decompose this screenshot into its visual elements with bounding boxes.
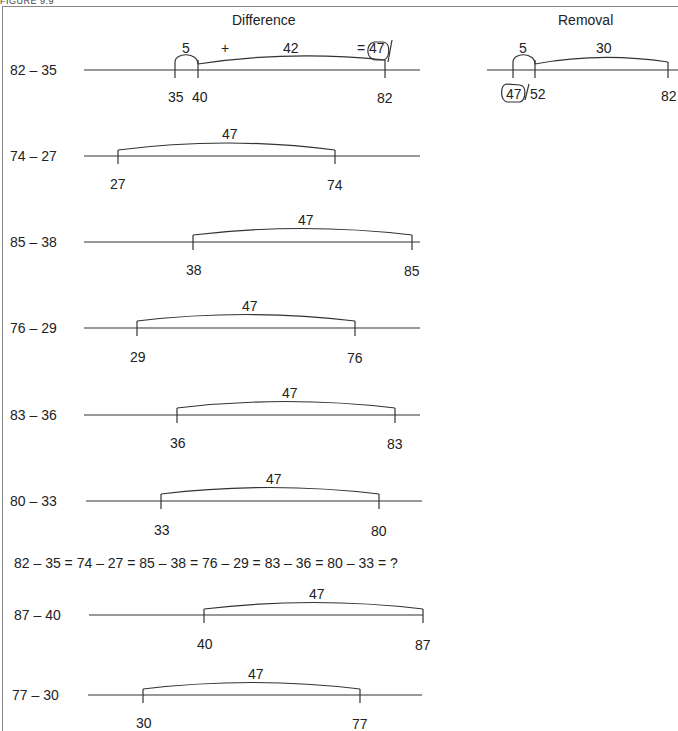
jump-label: 30	[596, 40, 612, 56]
difference-number-line-3	[84, 229, 420, 251]
tick-label: 30	[136, 715, 152, 731]
tick-label: 52	[530, 86, 546, 102]
difference-number-line-8	[88, 683, 422, 704]
tick-label: 82	[377, 90, 393, 106]
jump-label: 42	[283, 40, 299, 56]
tick-label: 33	[154, 522, 170, 538]
plus-sign: +	[221, 40, 229, 56]
tick-label: 87	[415, 637, 431, 653]
total-label: = 47	[357, 40, 385, 56]
jump-label: 5	[182, 40, 190, 56]
tick-label: 35	[168, 89, 184, 105]
tick-label: 76	[347, 350, 363, 366]
jump-label: 47	[248, 666, 264, 682]
tick-label: 36	[170, 435, 186, 451]
equation-text: 82 – 35 = 74 – 27 = 85 – 38 = 76 – 29 = …	[14, 555, 398, 571]
row-label: 80 – 33	[10, 493, 57, 509]
jump-label: 47	[309, 586, 325, 602]
jump-label: 47	[222, 126, 238, 142]
tick-label: 85	[404, 263, 420, 279]
tick-label: 80	[371, 523, 387, 539]
jump-label: 5	[519, 40, 527, 56]
tick-label: 27	[110, 176, 126, 192]
removal-heading: Removal	[558, 12, 613, 28]
tick-label: 74	[327, 177, 343, 193]
tick-label: 83	[387, 436, 403, 452]
number-line-drawings	[0, 0, 678, 731]
difference-number-line-6	[86, 488, 422, 510]
tick-label: 40	[192, 89, 208, 105]
row-label: 76 – 29	[10, 320, 57, 336]
tick-label: 38	[186, 262, 202, 278]
row-label: 87 – 40	[14, 607, 61, 623]
row-label: 74 – 27	[10, 148, 57, 164]
jump-label: 47	[298, 212, 314, 228]
tick-label: 77	[352, 716, 368, 731]
difference-number-line-2	[84, 143, 420, 164]
row-label: 77 – 30	[12, 687, 59, 703]
tick-label: 29	[130, 349, 146, 365]
difference-heading: Difference	[232, 12, 296, 28]
jump-label: 47	[266, 471, 282, 487]
jump-label: 47	[242, 298, 258, 314]
difference-number-line-5	[84, 402, 420, 424]
tick-label: 40	[197, 636, 213, 652]
difference-number-line-7	[89, 603, 423, 624]
row-label: 83 – 36	[10, 407, 57, 423]
tick-label: 82	[661, 88, 677, 104]
difference-number-line-4	[84, 315, 420, 337]
jump-label: 47	[282, 385, 298, 401]
row-label: 85 – 38	[10, 234, 57, 250]
row-label: 82 – 35	[10, 62, 57, 78]
tick-label: 47	[506, 86, 522, 102]
